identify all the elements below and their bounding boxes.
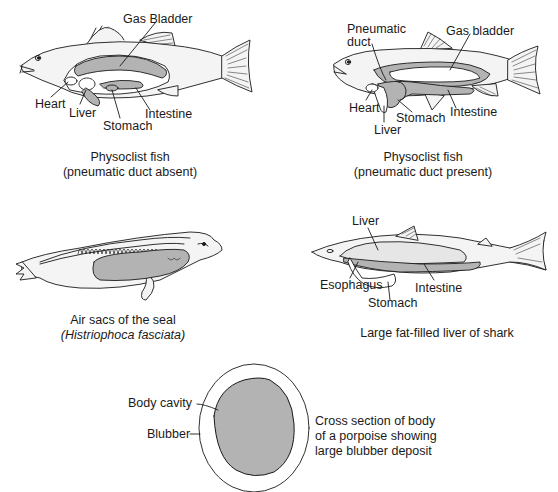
- stomach-label: Stomach: [368, 297, 417, 310]
- porpoise-description-line3: large blubber deposit: [315, 444, 437, 459]
- fish-absent-caption: Physoclist fish (pneumatic duct absent): [50, 150, 210, 180]
- intestine-label: Intestine: [145, 108, 192, 121]
- fish-absent-caption-line2: (pneumatic duct absent): [50, 165, 210, 180]
- pneumatic-duct-label-line2: duct: [347, 36, 371, 49]
- buoyancy-adaptations-figure: Gas Bladder Heart Liver Stomach Intestin…: [0, 0, 558, 492]
- porpoise-description: Cross section of body of a porpoise show…: [315, 414, 437, 459]
- fish-absent-caption-line1: Physoclist fish: [50, 150, 210, 165]
- porpoise-description-line1: Cross section of body: [315, 414, 437, 429]
- porpoise-description-line2: of a porpoise showing: [315, 429, 437, 444]
- esophagus-label: Esophagus: [320, 279, 383, 292]
- stomach-label: Stomach: [103, 120, 152, 133]
- pneumatic-duct-label-line1: Pneumatic: [347, 23, 406, 36]
- gas-bladder-label: Gas bladder: [446, 25, 514, 38]
- seal-caption-species: (Histriophoca fasciata): [48, 328, 198, 343]
- liver-label: Liver: [352, 215, 379, 228]
- seal-illustration: [16, 232, 222, 300]
- intestine-label: Intestine: [450, 106, 497, 119]
- body-cavity-label: Body cavity: [128, 397, 192, 410]
- porpoise-cross-section-illustration: [190, 364, 309, 492]
- gas-bladder-label: Gas Bladder: [123, 13, 192, 26]
- fish-present-caption-line1: Physoclist fish: [343, 150, 503, 165]
- seal-caption-line1: Air sacs of the seal: [48, 313, 198, 328]
- liver-label: Liver: [69, 107, 96, 120]
- blubber-label: Blubber: [147, 428, 190, 441]
- fish-present-caption-line2: (pneumatic duct present): [343, 165, 503, 180]
- shark-caption: Large fat-filled liver of shark: [347, 326, 527, 341]
- fish-present-caption: Physoclist fish (pneumatic duct present): [343, 150, 503, 180]
- figure-illustrations: [0, 0, 558, 492]
- liver-label: Liver: [374, 124, 401, 137]
- stomach-label: Stomach: [396, 112, 445, 125]
- heart-label: Heart: [349, 102, 380, 115]
- heart-label: Heart: [35, 98, 66, 111]
- intestine-label: Intestine: [415, 282, 462, 295]
- seal-caption: Air sacs of the seal (Histriophoca fasci…: [48, 313, 198, 343]
